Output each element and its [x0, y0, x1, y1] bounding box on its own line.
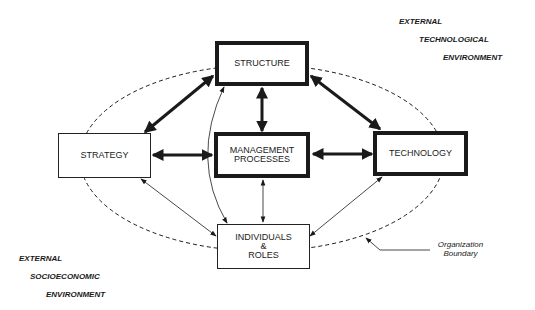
external-socioeconomic-line3: ENVIRONMENT — [46, 290, 105, 299]
external-socioeconomic-line2: SOCIOECONOMIC — [30, 272, 100, 281]
boundary-label-line2: Boundary — [428, 249, 493, 258]
node-strategy: STRATEGY — [58, 133, 151, 178]
node-structure-label: STRUCTURE — [234, 59, 290, 68]
node-structure: STRUCTURE — [215, 41, 309, 86]
boundary-label-line1: Organization — [428, 240, 493, 249]
node-individuals-label-line3: ROLES — [248, 251, 279, 260]
organization-boundary-label: Organization Boundary — [428, 240, 493, 258]
node-management-label-line2: PROCESSES — [234, 155, 290, 164]
external-technological-line3: ENVIRONMENT — [443, 53, 502, 62]
external-socioeconomic-line1: EXTERNAL — [19, 254, 62, 263]
node-strategy-label: STRATEGY — [81, 151, 129, 160]
node-management-processes: MANAGEMENT PROCESSES — [214, 132, 310, 178]
node-individuals-roles: INDIVIDUALS & ROLES — [217, 224, 310, 269]
external-technological-line2: TECHNOLOGICAL — [419, 35, 489, 44]
node-technology-label: TECHNOLOGY — [389, 149, 452, 158]
node-technology: TECHNOLOGY — [373, 131, 468, 176]
external-technological-line1: EXTERNAL — [399, 17, 442, 26]
